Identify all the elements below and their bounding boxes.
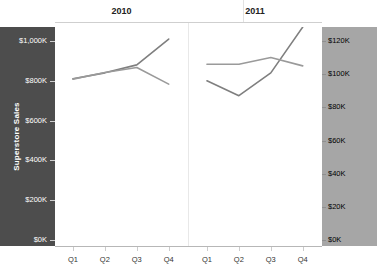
right-axis-tick-label: $40K xyxy=(328,170,346,178)
right-axis-tick-label: $120K xyxy=(328,37,350,45)
x-axis-tick xyxy=(271,247,272,251)
x-axis-panel-2010: Q1Q2Q3Q4 xyxy=(55,247,188,273)
panel-header-2010: 2010 xyxy=(55,0,188,22)
right-axis-tick-label: $0K xyxy=(328,236,341,244)
x-axis-tick xyxy=(105,247,106,251)
x-axis-q-2010-label: Q3 xyxy=(132,255,142,264)
right-axis-tick-label: $20K xyxy=(328,203,346,211)
right-axis-tick-mark xyxy=(322,240,326,241)
header-divider xyxy=(243,0,244,22)
right-axis-tick-mark xyxy=(322,41,326,42)
panel-header-2011: 2011 xyxy=(188,0,322,22)
x-axis-q-2010-label: Q2 xyxy=(100,255,110,264)
x-axis-tick xyxy=(73,247,74,251)
line-superstore-2010 xyxy=(73,39,169,79)
panel-header-2010-label: 2010 xyxy=(111,6,131,16)
x-axis-q-2010-label: Q4 xyxy=(164,255,174,264)
x-axis-tick xyxy=(239,247,240,251)
x-axis-tick xyxy=(303,247,304,251)
x-axis-tick xyxy=(169,247,170,251)
line-coffee-chain-2011 xyxy=(207,58,303,66)
lines-2011 xyxy=(189,27,322,246)
left-axis-title: Superstore Sales xyxy=(11,27,22,246)
left-axis-tick-label: $1,000K xyxy=(19,37,47,45)
right-axis-tick-mark xyxy=(322,174,326,175)
right-axis-tick-mark xyxy=(322,141,326,142)
x-axis-q-2011-label: Q3 xyxy=(266,255,276,264)
plot-panel-2011 xyxy=(189,27,322,246)
right-axis-tick-label: $100K xyxy=(328,70,350,78)
right-axis: Coffee Chain Sales $120K$100K$80K$60K$40… xyxy=(322,27,377,246)
x-axis-q-2010-label: Q1 xyxy=(68,255,78,264)
right-axis-tick-label: $80K xyxy=(328,103,346,111)
x-axis-q-2011-label: Q2 xyxy=(234,255,244,264)
right-axis-tick-mark xyxy=(322,207,326,208)
panel-header-row: 2010 2011 xyxy=(55,0,322,22)
x-axis-tick xyxy=(137,247,138,251)
x-axis-tick xyxy=(207,247,208,251)
left-axis-tick-label: $800K xyxy=(25,77,47,85)
x-axis-q-2011-label: Q4 xyxy=(298,255,308,264)
left-axis-tick-label: $0K xyxy=(34,236,47,244)
left-axis-tick-label: $200K xyxy=(25,196,47,204)
x-axis-panel-2011: Q1Q2Q3Q4 xyxy=(189,247,322,273)
x-axis: Q1Q2Q3Q4 Q1Q2Q3Q4 xyxy=(55,247,322,273)
right-axis-tick-mark xyxy=(322,74,326,75)
panel-header-2011-label: 2011 xyxy=(245,6,265,16)
line-coffee-chain-2010 xyxy=(73,68,169,85)
x-axis-q-2011-label: Q1 xyxy=(202,255,212,264)
left-axis: Superstore Sales $1,000K$800K$600K$400K$… xyxy=(0,27,55,246)
left-axis-tick-label: $600K xyxy=(25,117,47,125)
lines-2010 xyxy=(55,27,188,246)
left-axis-tick-label: $400K xyxy=(25,156,47,164)
right-axis-tick-label: $60K xyxy=(328,137,346,145)
panel-divider xyxy=(188,23,189,246)
chart-page: 2010 2011 Superstore Sales $1,000K$800K$… xyxy=(0,0,377,273)
plot-panel-2010 xyxy=(55,27,188,246)
right-axis-tick-mark xyxy=(322,107,326,108)
